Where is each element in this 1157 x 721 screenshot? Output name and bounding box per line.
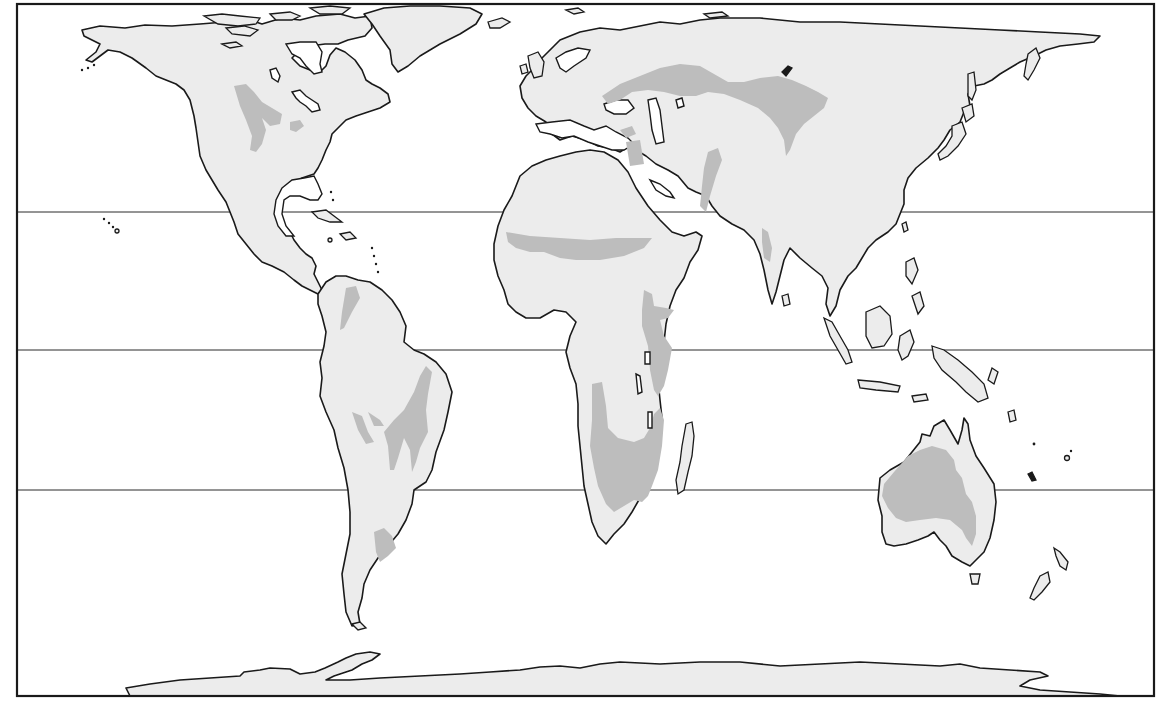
world-map bbox=[0, 0, 1157, 721]
tasmania bbox=[970, 574, 980, 584]
map-canvas bbox=[0, 0, 1157, 721]
